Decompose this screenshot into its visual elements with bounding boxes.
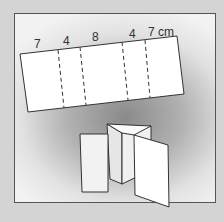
flat-strip (20, 36, 184, 112)
folded-strip (80, 124, 169, 207)
diagram-figure: 7 4 8 4 7 cm (0, 0, 224, 222)
segment-label-2: 4 (63, 34, 70, 48)
segment-label-3: 8 (92, 30, 99, 44)
segment-label-4: 4 (129, 27, 136, 41)
segment-label-5: 7 cm (148, 25, 174, 39)
segment-label-1: 7 (34, 37, 41, 51)
